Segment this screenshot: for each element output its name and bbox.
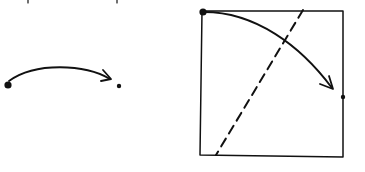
right-figure: [199, 8, 345, 157]
dashed-line: [216, 10, 303, 155]
diagram-canvas: [0, 0, 365, 172]
start-point: [199, 8, 206, 15]
curved-arrow: [204, 12, 332, 88]
start-point: [4, 81, 11, 88]
curved-arrow: [9, 67, 110, 81]
left-figure: [4, 67, 121, 88]
end-point: [341, 95, 345, 99]
cropped-text-fragments: [28, 0, 117, 3]
end-point: [117, 84, 121, 88]
